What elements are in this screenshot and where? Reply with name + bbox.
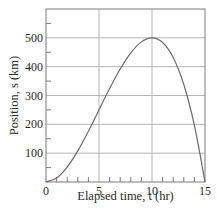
y-tick-label: 200 bbox=[25, 117, 43, 131]
x-tick-label: 0 bbox=[43, 184, 49, 198]
y-tick-labels: 100200300400500 bbox=[25, 31, 43, 160]
gridlines bbox=[46, 9, 205, 182]
x-axis-title: Elapsed time, t (hr) bbox=[77, 189, 174, 203]
y-tick-label: 500 bbox=[25, 31, 43, 45]
position-time-chart: 051015 100200300400500 Elapsed time, t (… bbox=[0, 0, 217, 215]
y-axis-title: Position, s (km) bbox=[7, 56, 21, 136]
x-tick-label: 15 bbox=[199, 184, 211, 198]
position-curve bbox=[46, 38, 205, 182]
y-tick-label: 100 bbox=[25, 146, 43, 160]
minor-ticks bbox=[46, 23, 194, 182]
y-tick-label: 400 bbox=[25, 60, 43, 74]
y-tick-label: 300 bbox=[25, 89, 43, 103]
